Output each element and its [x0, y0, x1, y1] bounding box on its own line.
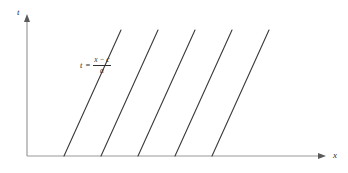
up-arrow-icon: [24, 14, 30, 22]
equation-denominator: a: [99, 66, 105, 75]
characteristic-line-3: [138, 30, 195, 156]
characteristic-line-2: [101, 30, 158, 156]
right-arrow-icon: [318, 153, 326, 159]
equation-numerator: x − c: [93, 56, 110, 65]
characteristic-line-4: [175, 30, 232, 156]
characteristic-line-1: [64, 30, 121, 156]
x-axis-label: x: [333, 151, 337, 160]
characteristic-lines-figure: t x t = x − c a: [0, 0, 348, 173]
equation-lhs: t: [80, 61, 82, 70]
t-axis-label: t: [17, 8, 20, 17]
equation-fraction: x − c a: [93, 56, 110, 74]
characteristic-line-group: [64, 30, 269, 156]
equation-equals-sign: =: [85, 61, 90, 70]
characteristic-equation: t = x − c a: [80, 56, 111, 74]
figure-canvas: [0, 0, 348, 173]
characteristic-line-5: [212, 30, 269, 156]
t-axis: [24, 14, 30, 156]
